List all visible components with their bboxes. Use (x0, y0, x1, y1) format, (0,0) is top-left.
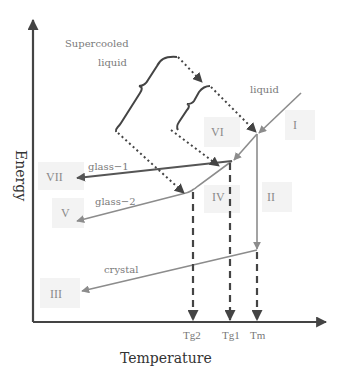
liquid-label: liquid (250, 84, 279, 95)
region-IV: IV (212, 190, 225, 204)
energy-temperature-diagram: Supercooled liquid liquid glass−1 glass−… (0, 0, 342, 381)
tg2-label: Tg2 (183, 329, 201, 341)
region-VI: VI (211, 125, 224, 139)
tm-label: Tm (250, 329, 266, 341)
dotted-arrow-upper (178, 57, 202, 82)
x-axis-title: Temperature (120, 350, 212, 366)
region-label-boxes (38, 110, 315, 308)
y-axis-title: Energy (13, 150, 29, 201)
supercooled-label-line1: Supercooled (65, 38, 129, 49)
large-brace (116, 57, 177, 132)
region-V: V (61, 206, 70, 220)
region-II: II (267, 190, 275, 204)
tg1-label: Tg1 (222, 329, 240, 341)
region-VII: VII (46, 170, 63, 184)
glass1-label: glass−1 (88, 161, 129, 172)
crystal-label: crystal (104, 264, 138, 275)
supercooled-label-line2: liquid (98, 57, 127, 68)
region-I: I (293, 118, 297, 132)
glass2-label: glass−2 (95, 196, 136, 207)
region-III: III (50, 287, 62, 301)
